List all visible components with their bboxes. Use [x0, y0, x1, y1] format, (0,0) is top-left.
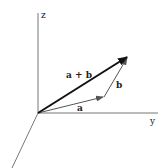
sum-label: a + b — [66, 70, 92, 80]
vector-addition-diagram: z y a + b b a — [0, 0, 166, 168]
y-axis-label: y — [149, 116, 156, 126]
vector-a-label: a — [77, 103, 83, 113]
vector-a — [38, 97, 103, 113]
z-axis-label: z — [41, 10, 46, 20]
x-axis — [12, 113, 38, 168]
vector-b-label: b — [116, 80, 122, 90]
diagram-svg: z y a + b b a — [0, 0, 166, 168]
